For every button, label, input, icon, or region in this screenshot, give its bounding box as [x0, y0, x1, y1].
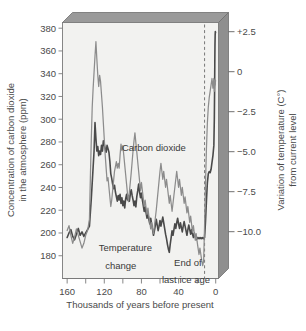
carbon-dioxide-label: Carbon dioxide [122, 142, 186, 153]
y-tick-label-380: 380 [40, 23, 56, 34]
y-tick-label-240: 240 [40, 182, 56, 193]
x-tick-label-160: 160 [59, 286, 75, 297]
end-of-ice-age-label: End of [174, 257, 202, 268]
end-of-ice-age-label-2: last ice age [162, 274, 210, 285]
y2-tick-label-5: −10.0 [237, 226, 261, 237]
y2-tick-label-3: −5.0 [237, 146, 256, 157]
y-tick-label-220: 220 [40, 205, 56, 216]
y-tick-label-280: 280 [40, 136, 56, 147]
temperature-change-label-2: change [105, 260, 136, 271]
box-top-face [63, 13, 229, 23]
x-tick-label-80: 80 [136, 286, 147, 297]
chart-figure: 180200220240260280300320340360380+2.50−2… [0, 0, 306, 331]
y-tick-label-340: 340 [40, 68, 56, 79]
y-tick-label-360: 360 [40, 45, 56, 56]
y2-axis-label-line2: from current level [287, 113, 298, 186]
co2-temperature-chart: 180200220240260280300320340360380+2.50−2… [0, 0, 306, 331]
y-axis-label-line1: Concentration of carbon dioxide [5, 83, 16, 217]
y2-tick-label-1: 0 [237, 66, 242, 77]
x-tick-label-40: 40 [173, 286, 184, 297]
y-tick-label-260: 260 [40, 159, 56, 170]
y-tick-label-200: 200 [40, 227, 56, 238]
y2-tick-label-4: −7.5 [237, 186, 256, 197]
y-tick-label-320: 320 [40, 91, 56, 102]
y-tick-label-180: 180 [40, 250, 56, 261]
y-tick-label-300: 300 [40, 114, 56, 125]
y2-tick-label-0: +2.5 [237, 26, 256, 37]
temperature-change-label: Temperature [99, 242, 152, 253]
x-tick-label-120: 120 [96, 286, 112, 297]
x-axis-label: Thousands of years before present [66, 299, 214, 310]
y2-axis-label-line1: Variation of temperature (C°) [275, 90, 286, 211]
y-axis-label-line2: in the atmosphere (ppm) [17, 98, 28, 202]
y2-tick-label-2: −2.5 [237, 106, 256, 117]
box-right-face [219, 13, 229, 279]
x-tick-label-0: 0 [213, 286, 218, 297]
